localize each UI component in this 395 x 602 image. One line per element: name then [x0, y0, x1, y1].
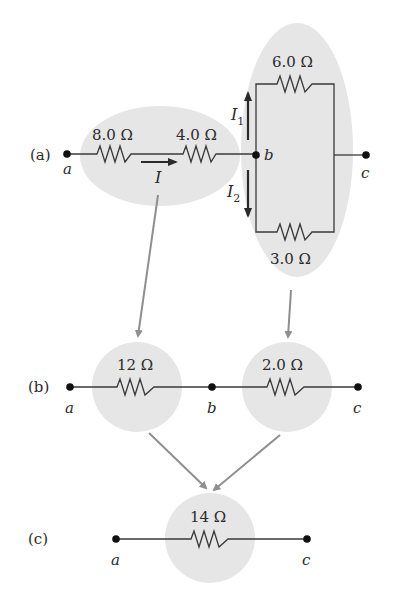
node-b-label: b — [207, 399, 217, 417]
node-c-label: c — [353, 399, 362, 417]
resistor-4-label: 4.0 Ω — [176, 126, 217, 144]
resistor-2-label: 2.0 Ω — [262, 356, 303, 374]
resistor-12-label: 12 Ω — [117, 356, 153, 374]
node-c — [362, 151, 370, 159]
node-c — [354, 383, 362, 391]
total-equiv-highlight — [165, 493, 255, 583]
resistor-6-label: 6.0 Ω — [272, 53, 313, 71]
node-c-label: c — [302, 551, 311, 569]
resistor-3-label: 3.0 Ω — [270, 250, 311, 268]
reduction-arrow-parallel — [288, 290, 291, 337]
node-a-label: a — [111, 551, 120, 569]
node-a-label: a — [63, 160, 72, 178]
current-i-label: I — [154, 168, 162, 187]
resistor-8-label: 8.0 Ω — [92, 126, 133, 144]
reduction-arrow-right — [214, 435, 280, 490]
current-i1-label: I1 — [230, 105, 244, 128]
circuit-diagram: (a) a b c 8.0 Ω 4.0 Ω 6.0 Ω 3.0 Ω I I1 I… — [0, 0, 395, 602]
series-group-highlight — [80, 106, 240, 206]
node-a-label: a — [65, 399, 74, 417]
panel-a-label: (a) — [30, 146, 51, 164]
node-b — [208, 383, 216, 391]
current-i2-label: I2 — [226, 182, 240, 205]
node-a — [66, 383, 74, 391]
panel-c: (c) a c 14 Ω — [28, 508, 311, 569]
panel-c-label: (c) — [28, 530, 48, 548]
node-b — [252, 151, 260, 159]
resistor-14-label: 14 Ω — [190, 508, 226, 526]
reduction-arrow-left — [149, 433, 206, 488]
node-c — [303, 535, 311, 543]
reduction-arrow-series — [138, 195, 158, 336]
panel-b-label: (b) — [28, 378, 49, 396]
node-a — [63, 150, 71, 158]
node-c-label: c — [361, 164, 370, 182]
node-b-label: b — [264, 146, 274, 164]
node-a — [112, 535, 120, 543]
